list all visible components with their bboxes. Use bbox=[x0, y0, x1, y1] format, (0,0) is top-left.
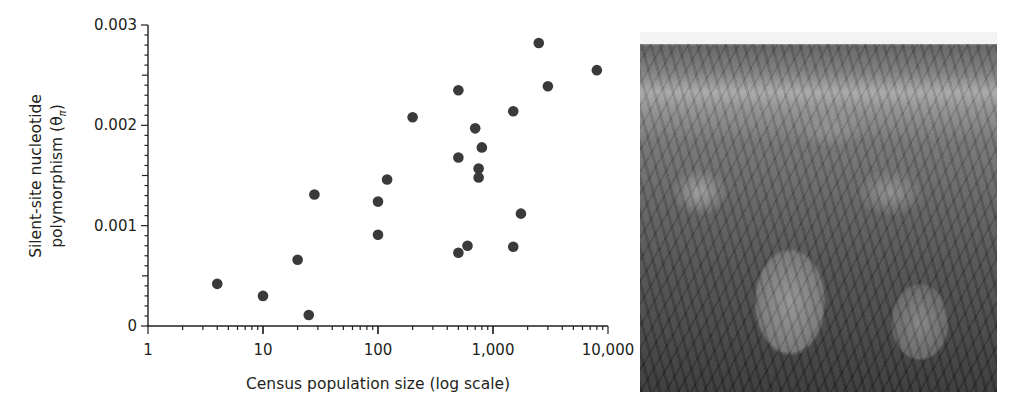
y-axis-title: Silent-site nucleotide polymorphism (θπ) bbox=[27, 94, 68, 258]
data-point bbox=[453, 152, 464, 163]
data-point bbox=[258, 291, 269, 302]
data-points bbox=[212, 38, 602, 321]
y-axis: 00.0010.0020.003 bbox=[94, 16, 148, 335]
y-tick-label: 0.003 bbox=[94, 16, 137, 34]
data-point bbox=[470, 123, 481, 134]
x-tick-label: 100 bbox=[364, 341, 393, 359]
y-axis-title-line1: Silent-site nucleotide bbox=[27, 94, 45, 258]
data-point bbox=[516, 208, 527, 219]
data-point bbox=[303, 310, 314, 321]
data-point bbox=[212, 279, 223, 290]
y-tick-label: 0.002 bbox=[94, 116, 137, 134]
x-tick-label: 10,000 bbox=[582, 341, 635, 359]
data-point bbox=[453, 85, 464, 96]
x-tick-label: 1,000 bbox=[472, 341, 515, 359]
y-tick-label: 0 bbox=[127, 317, 137, 335]
data-point bbox=[592, 65, 603, 76]
data-point bbox=[533, 38, 544, 49]
data-point bbox=[373, 229, 384, 240]
y-axis-title-line2: polymorphism (θπ) bbox=[48, 104, 68, 247]
scatter-chart: Silent-site nucleotide polymorphism (θπ)… bbox=[0, 0, 640, 416]
data-point bbox=[473, 163, 484, 174]
data-point bbox=[473, 172, 484, 183]
data-point bbox=[462, 240, 473, 251]
x-axis: 1101001,00010,000 bbox=[143, 326, 634, 359]
data-point bbox=[508, 106, 519, 117]
data-point bbox=[477, 142, 488, 153]
data-point bbox=[453, 247, 464, 258]
x-axis-title: Census population size (log scale) bbox=[246, 375, 510, 393]
data-point bbox=[407, 112, 418, 123]
data-point bbox=[373, 196, 384, 207]
x-tick-label: 1 bbox=[143, 341, 153, 359]
data-point bbox=[309, 189, 320, 200]
data-point bbox=[382, 174, 393, 185]
x-tick-label: 10 bbox=[253, 341, 272, 359]
data-point bbox=[543, 81, 554, 92]
y-tick-label: 0.001 bbox=[94, 217, 137, 235]
data-point bbox=[292, 254, 303, 265]
data-point bbox=[508, 241, 519, 252]
plant-field-photo bbox=[640, 32, 997, 392]
